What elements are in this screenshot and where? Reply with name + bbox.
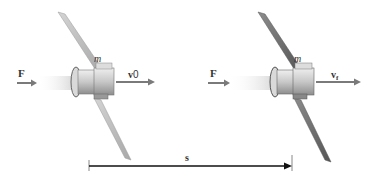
velocity-subscript: 0 xyxy=(133,69,139,80)
satellite-module xyxy=(94,68,114,95)
satellite-module xyxy=(293,68,314,95)
satellite-initial xyxy=(36,12,131,160)
velocity-arrowhead-final xyxy=(354,79,361,86)
velocity-label-final: vf xyxy=(331,69,338,82)
force-label-initial: F xyxy=(18,67,25,79)
thrust-plume xyxy=(228,76,272,90)
satellite-bottom-box xyxy=(293,94,307,99)
mass-label-initial: m xyxy=(94,53,101,64)
satellite-bottom-box xyxy=(94,94,108,99)
velocity-subscript: f xyxy=(336,74,338,82)
velocity-arrowhead-initial xyxy=(148,79,155,86)
solar-panel-lower xyxy=(94,98,131,160)
satellite-body xyxy=(78,70,96,94)
velocity-label-initial: v0 xyxy=(128,69,139,80)
satellite-final xyxy=(228,12,331,162)
solar-panel-lower xyxy=(294,98,331,162)
displacement-arrowhead xyxy=(284,163,292,170)
satellite-body xyxy=(277,70,295,94)
thrust-plume xyxy=(36,76,72,90)
mass-label-final: m xyxy=(294,53,301,64)
displacement-label: s xyxy=(185,152,189,163)
force-label-final: F xyxy=(210,67,217,79)
